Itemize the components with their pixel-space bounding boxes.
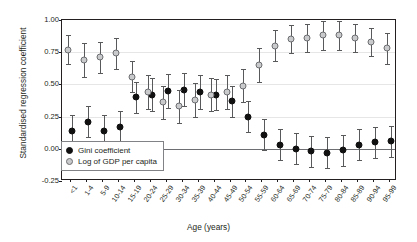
data-point-gdp (383, 45, 390, 52)
x-axis-tick-label: 25-29 (158, 184, 174, 203)
error-bar-cap (305, 24, 310, 25)
x-axis-tick-label: 35-39 (190, 184, 206, 203)
error-bar-cap (150, 78, 155, 79)
data-point-gdp (176, 103, 183, 110)
x-axis-tick-label: 95-99 (381, 184, 397, 203)
x-axis-tick-label: <1 (68, 184, 79, 195)
y-axis-tick-label: -0.25 (42, 177, 59, 185)
data-point-gdp (192, 96, 199, 103)
data-point-gini (340, 147, 347, 154)
x-axis-tick-mark (357, 179, 358, 182)
error-bar-cap (177, 90, 182, 91)
error-bar-cap (86, 106, 91, 107)
x-axis-tick-mark (86, 179, 87, 182)
x-axis-tick-mark (214, 179, 215, 182)
error-bar-cap (198, 109, 203, 110)
error-bar-cap (357, 160, 362, 161)
error-bar-cap (385, 64, 390, 65)
error-bar-cap (193, 117, 198, 118)
error-bar-cap (146, 75, 151, 76)
data-point-gini (101, 127, 108, 134)
x-axis-tick-label: 45-49 (222, 184, 238, 203)
error-bar-cap (389, 157, 394, 158)
open-circle-icon (66, 158, 73, 165)
error-bar-cap (337, 21, 342, 22)
error-bar-cap (114, 69, 119, 70)
error-bar-cap (146, 109, 151, 110)
error-bar-cap (262, 119, 267, 120)
gridline (62, 117, 395, 118)
data-point-gdp (367, 38, 374, 45)
gridline (62, 84, 395, 85)
x-axis-tick-mark (150, 179, 151, 182)
data-point-gdp (112, 50, 119, 57)
error-bar-cap (257, 48, 262, 49)
error-bar-cap (130, 92, 135, 93)
y-axis-tick-label: 0.00 (44, 145, 59, 153)
data-point-gini (292, 145, 299, 152)
error-bar-cap (246, 132, 251, 133)
y-axis-tick-label: 0.75 (44, 48, 59, 56)
x-axis-tick-mark (293, 179, 294, 182)
error-bar-cap (241, 69, 246, 70)
error-bar-cap (321, 21, 326, 22)
error-bar-cap (373, 158, 378, 159)
error-bar-cap (214, 110, 219, 111)
x-axis-tick-mark (182, 179, 183, 182)
error-bar-cap (225, 75, 230, 76)
data-point-gdp (96, 54, 103, 61)
data-point-gdp (208, 91, 215, 98)
error-bar-cap (289, 53, 294, 54)
data-point-gdp (304, 35, 311, 42)
x-axis-tick-label: 5-9 (99, 184, 111, 197)
error-bar-cap (262, 150, 267, 151)
x-axis-tick-label: 15-19 (126, 184, 142, 203)
data-point-gdp (320, 32, 327, 39)
data-point-gini (244, 113, 251, 120)
error-bar-cap (294, 164, 299, 165)
error-bar-cap (150, 111, 155, 112)
data-point-gini (132, 94, 139, 101)
error-bar-cap (241, 102, 246, 103)
error-bar-cap (325, 168, 330, 169)
error-bar-cap (230, 86, 235, 87)
error-bar-cap (198, 75, 203, 76)
data-point-gini (276, 141, 283, 148)
error-bar-cap (309, 136, 314, 137)
error-bar-cap (321, 50, 326, 51)
x-axis-tick-label: 10-14 (110, 184, 126, 203)
x-axis-tick-mark (245, 179, 246, 182)
error-bar-cap (341, 135, 346, 136)
error-bar-cap (134, 82, 139, 83)
error-bar-cap (289, 25, 294, 26)
error-bar-cap (102, 115, 107, 116)
error-bar-cap (134, 113, 139, 114)
data-point-gini (308, 148, 315, 155)
legend-label: Gini coefficient (78, 147, 130, 155)
data-point-gdp (272, 42, 279, 49)
error-bar-cap (273, 30, 278, 31)
error-bar-cap (230, 117, 235, 118)
data-point-gini (356, 141, 363, 148)
data-point-gdp (288, 36, 295, 43)
x-axis-tick-label: 40-44 (206, 184, 222, 203)
error-bar-cap (294, 133, 299, 134)
legend-item: Gini coefficient (66, 145, 157, 156)
error-bar-cap (278, 129, 283, 130)
error-bar-cap (98, 73, 103, 74)
error-bar-cap (130, 61, 135, 62)
y-axis-tick-mark (59, 117, 62, 118)
error-bar-cap (369, 28, 374, 29)
data-point-gini (372, 139, 379, 146)
error-bar-cap (337, 50, 342, 51)
error-bar-cap (182, 73, 187, 74)
data-point-gini (69, 127, 76, 134)
error-bar-cap (161, 86, 166, 87)
data-point-gdp (335, 32, 342, 39)
error-bar-cap (66, 35, 71, 36)
error-bar-cap (373, 127, 378, 128)
x-axis-tick-label: 1-4 (83, 184, 95, 197)
error-bar-cap (161, 119, 166, 120)
error-bar-cap (118, 111, 123, 112)
error-bar-cap (353, 52, 358, 53)
